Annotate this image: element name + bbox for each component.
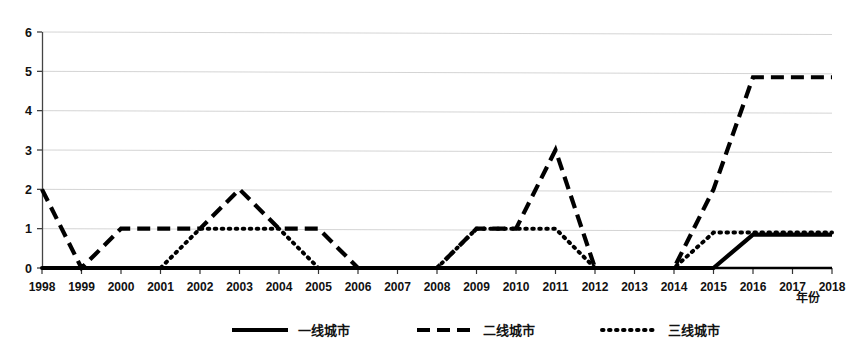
legend-label: 二线城市 — [483, 323, 535, 338]
y-axis-tick-label: 2 — [25, 183, 32, 197]
line-chart: 0123456 19981999200020012002200320042005… — [0, 0, 854, 364]
x-axis-tick-label: 2000 — [108, 280, 135, 294]
x-axis-tick-label: 2002 — [187, 280, 214, 294]
y-axis-tick-label: 6 — [25, 26, 32, 40]
x-axis-tick-label: 2007 — [384, 280, 411, 294]
x-axis-tick-label: 2009 — [463, 280, 490, 294]
y-axis-tick-label: 3 — [25, 144, 32, 158]
x-axis-tick-label: 2005 — [305, 280, 332, 294]
y-axis-tick-label: 1 — [25, 222, 32, 236]
legend-label: 一线城市 — [298, 323, 350, 338]
series-line-dotted — [42, 229, 832, 268]
x-axis-tick-labels: 1998199920002001200220032004200520062007… — [29, 280, 846, 294]
x-axis-tick-label: 2003 — [226, 280, 253, 294]
y-axis-tick-label: 4 — [25, 104, 32, 118]
x-axis-tick-label: 2004 — [266, 280, 293, 294]
legend-item[interactable]: 二线城市 — [417, 323, 535, 338]
legend-item[interactable]: 一线城市 — [232, 323, 350, 338]
gridline — [42, 32, 832, 35]
x-axis-tick-label: 2016 — [740, 280, 767, 294]
gridline — [42, 71, 832, 74]
x-axis-tick-label: 2006 — [345, 280, 372, 294]
x-axis-tick-label: 2008 — [424, 280, 451, 294]
legend-item[interactable]: 三线城市 — [602, 323, 720, 338]
y-axis-tick-label: 0 — [25, 262, 32, 276]
chart-legend: 一线城市二线城市三线城市 — [232, 323, 720, 338]
data-series-group — [42, 77, 832, 268]
x-axis-tick-label: 2012 — [582, 280, 609, 294]
series-line-solid — [42, 235, 832, 268]
x-axis-tick-label: 2001 — [147, 280, 174, 294]
gridline — [42, 150, 832, 153]
x-axis-tick-label: 2015 — [700, 280, 727, 294]
y-axis-tick-label: 5 — [25, 65, 32, 79]
chart-canvas: 0123456 19981999200020012002200320042005… — [0, 0, 854, 364]
x-axis-tick-label: 2014 — [661, 280, 688, 294]
series-line-dashed — [42, 77, 832, 268]
y-axis-tick-labels: 0123456 — [25, 26, 32, 276]
x-axis-tick-label: 2011 — [542, 280, 568, 294]
x-axis-tick-label: 2013 — [621, 280, 648, 294]
gridline — [42, 111, 832, 114]
x-axis-tick-label: 2018 — [819, 280, 846, 294]
legend-label: 三线城市 — [668, 323, 720, 338]
x-axis-title: 年份 — [796, 290, 821, 305]
x-axis-tick-label: 1998 — [29, 280, 56, 294]
x-axis-tick-label: 2010 — [503, 280, 530, 294]
x-axis-tick-label: 1999 — [68, 280, 95, 294]
